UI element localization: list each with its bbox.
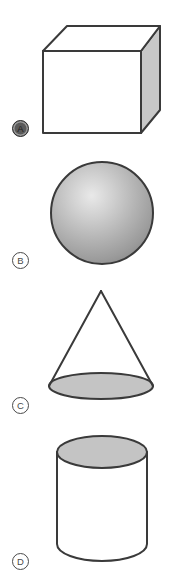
cube-front-face	[43, 51, 141, 133]
option-d[interactable]: D	[0, 428, 172, 584]
option-marker-d[interactable]: D	[12, 553, 29, 570]
option-a[interactable]: A	[0, 0, 172, 150]
option-marker-a-label: A	[17, 124, 23, 134]
cone-shape	[42, 285, 162, 405]
cube-top-face	[43, 26, 160, 51]
option-marker-c-label: C	[17, 401, 24, 411]
cylinder-top-ellipse	[57, 436, 147, 468]
option-b[interactable]: B	[0, 150, 172, 285]
cone-left-edge	[49, 291, 101, 386]
sphere-shape	[46, 158, 158, 270]
cube-shape	[36, 16, 164, 140]
cone-base-ellipse	[49, 373, 153, 399]
option-marker-d-label: D	[17, 557, 24, 567]
cylinder-shape	[50, 428, 154, 580]
options-diagram: A B	[0, 0, 172, 584]
sphere-body	[51, 162, 153, 264]
option-marker-b[interactable]: B	[12, 252, 29, 269]
option-marker-a[interactable]: A	[12, 120, 29, 137]
option-marker-b-label: B	[17, 256, 23, 266]
option-c[interactable]: C	[0, 285, 172, 428]
option-marker-c[interactable]: C	[12, 397, 29, 414]
cone-right-edge	[101, 291, 153, 386]
